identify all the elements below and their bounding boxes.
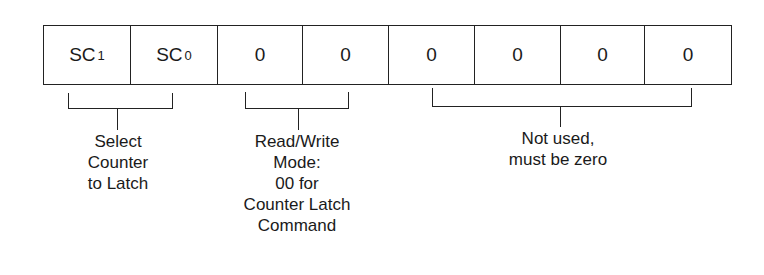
bit-label: 0 xyxy=(512,44,523,66)
bracket-stem-read-write-mode xyxy=(298,108,299,130)
label-line: Select xyxy=(88,131,149,152)
bit-subscript: 1 xyxy=(98,48,105,63)
bit-label: 0 xyxy=(340,44,351,66)
bit-label: 0 xyxy=(426,44,437,66)
label-line: Counter Latch xyxy=(244,194,351,215)
label-line: 00 for xyxy=(244,173,351,194)
control-word-register: SC1 SC0 0 0 0 0 0 0 xyxy=(43,25,732,85)
bit-cell-rw1: 0 xyxy=(218,26,303,84)
bit-label: 0 xyxy=(683,44,694,66)
bracket-not-used xyxy=(432,88,692,107)
bit-cell-unused-2: 0 xyxy=(475,26,561,84)
bracket-select-counter xyxy=(68,93,173,109)
label-line: Counter xyxy=(88,152,149,173)
label-read-write-mode: Read/Write Mode: 00 for Counter Latch Co… xyxy=(244,131,351,236)
bit-cell-unused-3: 0 xyxy=(389,26,475,84)
label-not-used: Not used, must be zero xyxy=(509,128,607,170)
bit-cell-sc1: SC1 xyxy=(44,26,131,84)
bit-label: 0 xyxy=(597,44,608,66)
label-line: Read/Write xyxy=(244,131,351,152)
bracket-read-write-mode xyxy=(245,92,349,109)
bracket-stem-not-used xyxy=(560,106,561,127)
bit-cell-unused-0: 0 xyxy=(645,26,731,84)
label-line: Not used, xyxy=(509,128,607,149)
label-line: Mode: xyxy=(244,152,351,173)
label-line: must be zero xyxy=(509,149,607,170)
bit-subscript: 0 xyxy=(185,48,192,63)
bit-label: 0 xyxy=(255,44,266,66)
bit-cell-rw0: 0 xyxy=(303,26,389,84)
label-line: to Latch xyxy=(88,173,149,194)
label-line: Command xyxy=(244,215,351,236)
label-select-counter: Select Counter to Latch xyxy=(88,131,149,194)
bit-label: SC xyxy=(69,44,95,66)
bit-cell-unused-1: 0 xyxy=(561,26,645,84)
bit-label: SC xyxy=(156,44,182,66)
bracket-stem-select-counter xyxy=(117,108,118,130)
bit-cell-sc0: SC0 xyxy=(131,26,218,84)
